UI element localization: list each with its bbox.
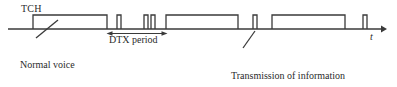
- comfort-noise-5: [363, 15, 367, 29]
- comfort-noise-4: [253, 15, 257, 29]
- dtx-period-label: DTX period: [109, 35, 158, 44]
- normal-voice-annotation: Normal voice transmission: [20, 39, 75, 87]
- dtx-timing-figure: TCH DTX period t Normal voice transmissi…: [0, 0, 397, 87]
- normal-voice-annotation-line-1: Normal voice: [20, 60, 75, 71]
- voice-burst-1: [33, 15, 107, 29]
- comfort-noise-annotation: Transmission of information for the comf…: [231, 50, 360, 87]
- leader-comfort-noise: [243, 31, 255, 48]
- pulse-train: [33, 15, 367, 29]
- time-axis-label: t: [370, 32, 373, 41]
- time-axis: [8, 26, 387, 33]
- comfort-noise-2: [144, 15, 148, 29]
- dtx-right-arrowhead-icon: [162, 31, 168, 35]
- comfort-noise-3: [151, 15, 155, 29]
- axis-arrowhead-icon: [381, 26, 387, 33]
- comfort-noise-1: [117, 15, 121, 29]
- voice-burst-3: [272, 15, 345, 29]
- voice-burst-2: [166, 15, 238, 29]
- tch-label: TCH: [21, 4, 42, 13]
- comfort-noise-annotation-line-1: Transmission of information: [231, 71, 360, 82]
